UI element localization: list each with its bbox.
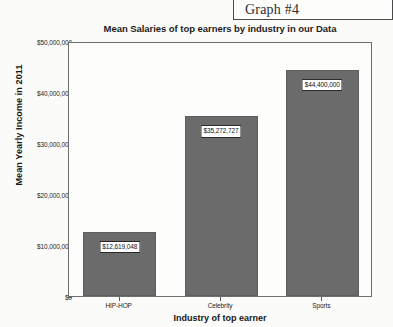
x-axis-tick-mark	[321, 297, 322, 301]
bar-sports[interactable]: $44,400,000	[286, 70, 359, 296]
y-axis-tick-label: $50,000,000	[37, 38, 72, 47]
chart-title: Mean Salaries of top earners by industry…	[68, 23, 372, 34]
y-axis-tick-label: $40,000,000	[37, 89, 72, 98]
y-axis-title: Mean Yearly Income in 2011	[14, 50, 24, 200]
bar-value-label: $12,619,048	[99, 241, 140, 254]
x-axis-tick-label: Sports	[276, 302, 366, 309]
plot-area: $12,619,048$35,272,727$44,400,000	[69, 43, 371, 296]
bar-celebrity[interactable]: $35,272,727	[185, 116, 258, 296]
bar-hip-hop[interactable]: $12,619,048	[83, 232, 156, 296]
y-axis-tick-label: $30,000,000	[37, 140, 72, 149]
plot-area-frame: $12,619,048$35,272,727$44,400,000	[68, 42, 372, 297]
y-axis-tick-mark	[68, 297, 72, 298]
graph-tag-label: Graph #4	[245, 2, 299, 18]
x-axis-tick-label: Celebrity	[175, 302, 265, 309]
graph-tag-box: Graph #4	[233, 0, 393, 20]
x-axis-title: Industry of top earner	[68, 313, 372, 323]
y-axis-tick-label: $20,000,000	[37, 191, 72, 200]
bar-value-label: $35,272,727	[200, 125, 241, 138]
y-axis-tick-label: $10,000,000	[37, 242, 72, 251]
bar-value-label: $44,400,000	[302, 79, 343, 92]
x-axis-tick-mark	[220, 297, 221, 301]
x-axis-tick-label: HIP-HOP	[74, 302, 164, 309]
x-axis-tick-mark	[119, 297, 120, 301]
